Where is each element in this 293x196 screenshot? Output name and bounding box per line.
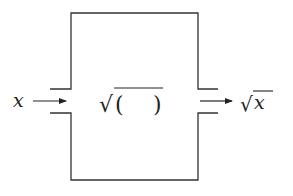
- function-label: √ ( ): [99, 88, 163, 117]
- radical-symbol: √: [99, 92, 114, 117]
- output-label: √ x: [240, 91, 273, 116]
- open-paren: (: [115, 92, 124, 117]
- function-machine-diagram: x √ ( ) √ x: [0, 0, 293, 196]
- input-label: x: [13, 89, 24, 111]
- output-variable: x: [254, 91, 265, 113]
- output-radical: √: [240, 92, 253, 116]
- close-paren: ): [153, 92, 162, 117]
- machine-box: [50, 13, 218, 180]
